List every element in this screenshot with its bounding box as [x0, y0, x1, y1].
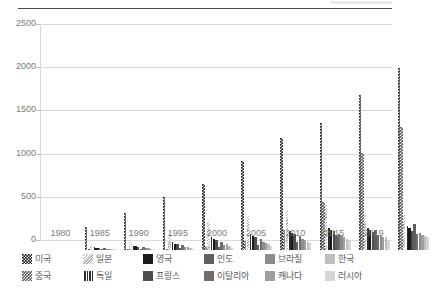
- legend-label: 독일: [96, 271, 112, 281]
- legend-swatch-icon: [325, 254, 335, 264]
- bar: [309, 243, 311, 250]
- bar-group: [159, 34, 198, 250]
- bar: [426, 237, 428, 250]
- legend-item[interactable]: 영국: [143, 252, 172, 265]
- y-axis-labels: 05001000150020002500: [0, 24, 36, 240]
- legend-label: 브라질: [278, 254, 302, 264]
- plot-area: 05001000150020002500: [0, 14, 400, 236]
- bar-group: [277, 34, 316, 250]
- x-axis-tick-label: 1990: [119, 228, 158, 239]
- legend-item[interactable]: 프랑스: [143, 269, 180, 282]
- x-axis-tick-label: 2005: [237, 228, 276, 239]
- y-axis-tick-label: 500: [2, 192, 36, 201]
- y-axis-tick-label: 2500: [2, 19, 36, 28]
- y-tick-mark-2000: [36, 67, 40, 68]
- legend-swatch-icon: [83, 271, 93, 281]
- y-tick-mark-2500: [36, 24, 40, 25]
- legend-label: 캐나다: [278, 271, 302, 281]
- legend-swatch-icon: [143, 254, 153, 264]
- legend-item[interactable]: 브라질: [265, 252, 302, 265]
- legend-swatch-icon: [204, 271, 214, 281]
- legend-label: 러시아: [338, 271, 362, 281]
- plot-canvas: [40, 24, 392, 240]
- x-axis-tick-label: 1995: [158, 228, 197, 239]
- bar: [153, 249, 155, 250]
- legend-item[interactable]: 러시아: [325, 269, 362, 282]
- legend-label: 프랑스: [156, 271, 180, 281]
- legend-swatch-icon: [325, 271, 335, 281]
- legend-label: 인도: [217, 254, 233, 264]
- legend-swatch-icon: [22, 254, 32, 264]
- legend-label: 중국: [35, 271, 51, 281]
- bar: [231, 248, 233, 250]
- bar-groups: [81, 34, 432, 250]
- bar-group: [316, 34, 355, 250]
- bar-group: [355, 34, 394, 250]
- legend-swatch-icon: [265, 271, 275, 281]
- legend-label: 미국: [35, 254, 51, 264]
- x-axis-tick-label: 1985: [80, 228, 119, 239]
- legend-swatch-icon: [265, 254, 275, 264]
- y-axis-line: [40, 24, 41, 240]
- x-axis-tick-label: 2015: [315, 228, 354, 239]
- y-axis-tick-label: 1500: [2, 105, 36, 114]
- legend-item[interactable]: 캐나다: [265, 269, 302, 282]
- y-tick-mark-500: [36, 197, 40, 198]
- legend-swatch-icon: [22, 271, 32, 281]
- y-tick-mark-0: [36, 240, 40, 241]
- legend-item[interactable]: 미국: [22, 252, 51, 265]
- legend-label: 일본: [96, 254, 112, 264]
- x-axis-tick-label: 2019: [354, 228, 393, 239]
- bar-group: [120, 34, 159, 250]
- bar-group: [237, 34, 276, 250]
- legend-item[interactable]: 독일: [83, 269, 112, 282]
- legend-item[interactable]: 한국: [325, 252, 354, 265]
- legend-swatch-icon: [204, 254, 214, 264]
- chart-legend: 미국중국일본독일영국프랑스인도이탈리아브라질캐나다한국러시아: [22, 252, 386, 286]
- bar-group: [394, 34, 433, 250]
- top-divider-rule: [18, 8, 392, 9]
- bar: [192, 249, 194, 250]
- x-axis-tick-label: 1980: [41, 228, 80, 239]
- legend-item[interactable]: 인도: [204, 252, 233, 265]
- legend-label: 영국: [156, 254, 172, 264]
- y-axis-tick-label: 2000: [2, 62, 36, 71]
- y-tick-mark-1000: [36, 154, 40, 155]
- legend-label: 이탈리아: [217, 271, 249, 281]
- x-axis-tick-label: 2010: [276, 228, 315, 239]
- top-right-artifact: [330, 1, 392, 4]
- bar: [270, 246, 272, 250]
- y-tick-mark-1500: [36, 110, 40, 111]
- bar-group: [198, 34, 237, 250]
- legend-label: 한국: [338, 254, 354, 264]
- x-axis-labels: 198019851990199520002005201020152019: [41, 228, 392, 242]
- bar: [114, 249, 116, 250]
- y-axis-tick-label: 1000: [2, 149, 36, 158]
- legend-item[interactable]: 중국: [22, 269, 51, 282]
- bar-group: [81, 34, 120, 250]
- bar: [163, 197, 165, 250]
- gridline-2500: [40, 24, 392, 25]
- x-axis-tick-label: 2000: [197, 228, 236, 239]
- legend-item[interactable]: 이탈리아: [204, 269, 249, 282]
- y-axis-tick-label: 0: [2, 235, 36, 244]
- legend-swatch-icon: [83, 254, 93, 264]
- legend-swatch-icon: [143, 271, 153, 281]
- legend-item[interactable]: 일본: [83, 252, 112, 265]
